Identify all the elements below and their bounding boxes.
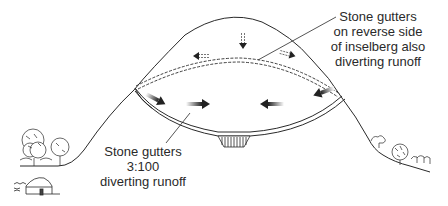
label-line: of inselberg also <box>308 39 448 54</box>
runoff-arrows-reverse <box>193 33 296 60</box>
arrow-icon <box>260 99 284 109</box>
arrow-icon <box>239 33 247 49</box>
label-line: 3:100 <box>88 159 198 174</box>
front-gutter <box>135 88 345 136</box>
right-shrubs <box>371 136 430 165</box>
arrow-icon <box>186 99 210 109</box>
arrow-icon <box>279 48 297 60</box>
arrow-icon <box>144 90 168 109</box>
arrow-icon <box>312 83 336 100</box>
label-line: Stone gutters <box>308 9 448 24</box>
label-line: diverting runoff <box>88 174 198 189</box>
label-reverse-side-gutters: Stone gutters on reverse side of inselbe… <box>308 9 448 69</box>
arrow-icon <box>193 52 209 60</box>
label-line: on reverse side <box>308 24 448 39</box>
label-line: Stone gutters <box>88 144 198 159</box>
runoff-arrows-front <box>144 83 336 109</box>
catchment-pit <box>218 136 250 147</box>
label-line: diverting runoff <box>308 54 448 69</box>
left-trees <box>20 129 69 166</box>
label-front-gutters: Stone gutters 3:100 diverting runoff <box>88 144 198 189</box>
hut-icon <box>14 178 60 195</box>
